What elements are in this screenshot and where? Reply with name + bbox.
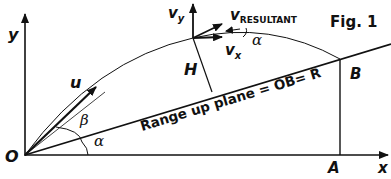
point-b-label: B: [350, 65, 361, 83]
tangent-arrow: [226, 29, 240, 31]
figure-title: Fig. 1: [330, 13, 377, 31]
vx-arrow: [193, 37, 222, 38]
range-label: Range up plane = OB= R: [138, 64, 323, 134]
vx-label: vx: [225, 41, 242, 61]
x-axis-label: x: [377, 159, 389, 177]
point-a-label: A: [327, 159, 340, 177]
origin-label: O: [5, 147, 19, 166]
alpha-base-label: α: [94, 132, 104, 150]
y-axis-label: y: [8, 25, 19, 44]
u-direction-line: [25, 92, 105, 155]
vy-label: vy: [168, 4, 185, 24]
beta-label: β: [79, 111, 89, 129]
height-label: H: [184, 60, 198, 79]
v-resultant-arrow: [193, 24, 222, 38]
initial-velocity-label: u: [70, 73, 81, 92]
v-resultant-label: vRESULTANT: [230, 6, 298, 25]
alpha-arc: [82, 142, 88, 155]
trajectory-curve: [25, 32, 340, 155]
alpha-top-label: α: [252, 31, 262, 49]
projectile-incline-diagram: y x O A B H u β α α vy vx vRESULTANT Fig…: [0, 0, 391, 179]
